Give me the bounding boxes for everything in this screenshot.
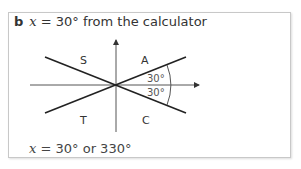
quadrant-a: A — [141, 54, 149, 67]
angle-upper: 30° — [147, 73, 165, 84]
angle-lower: 30° — [147, 87, 165, 98]
answer-text: = 30° or 330° — [36, 141, 131, 156]
quadrant-c: C — [142, 114, 150, 127]
answer: x = 30° or 330° — [29, 141, 131, 156]
quadrant-t: T — [79, 114, 87, 127]
quadrant-s: S — [80, 54, 87, 67]
